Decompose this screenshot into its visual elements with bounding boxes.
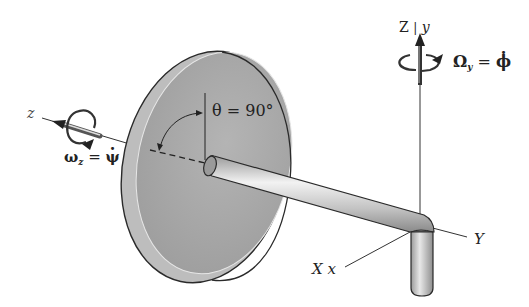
spin-rate-label: ωz = ψ <box>64 150 120 167</box>
x-axis-label: x <box>327 260 335 278</box>
theta-angle-label: θ = 90° <box>212 103 274 119</box>
precession-equals: = <box>472 52 496 71</box>
precession-omega-symbol: Ω <box>453 52 467 71</box>
y-axis-label: y <box>422 19 430 35</box>
disk-precession-diagram: z ωz = ψ θ = 90° Z | y Ωy = ϕ Y X x <box>0 0 529 307</box>
X-x-axis-label: X x <box>312 262 336 277</box>
axis-separator: | <box>413 21 417 35</box>
Y-axis-label: Y <box>474 232 484 247</box>
X-axis-label: X <box>312 260 323 278</box>
Z-axis-line <box>415 33 425 226</box>
spin-omega-symbol: ω <box>64 148 78 166</box>
Z-axis-label: Z <box>399 19 409 35</box>
spin-psi-dot: ψ <box>106 150 120 165</box>
spin-equals: = <box>83 148 105 166</box>
X-axis-line <box>345 232 410 267</box>
precession-phi-dot: ϕ <box>496 54 511 70</box>
z-axis-label: z <box>27 106 34 120</box>
Z-y-axis-label: Z | y <box>399 20 430 34</box>
precession-rate-label: Ωy = ϕ <box>453 54 511 72</box>
z-arrowhead-icon <box>52 120 66 129</box>
